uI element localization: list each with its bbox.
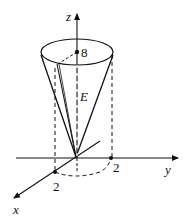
x-axis-label: x: [12, 202, 19, 217]
height-point: [75, 50, 79, 54]
radius-dashed: [58, 52, 77, 64]
x-radius-label: 2: [53, 179, 60, 194]
y-axis-label: y: [163, 162, 171, 177]
cone-diagram: z 8 E 2 y 2 x: [0, 0, 186, 221]
y-radius-label: 2: [113, 160, 120, 175]
base-arc-dashed: [55, 158, 111, 176]
region-label: E: [79, 89, 88, 104]
z-axis-label: z: [65, 9, 71, 24]
cone-right-side: [76, 55, 113, 157]
cone-inner-line-2: [59, 64, 76, 157]
height-label: 8: [81, 45, 88, 60]
x-radius-point: [53, 170, 57, 174]
